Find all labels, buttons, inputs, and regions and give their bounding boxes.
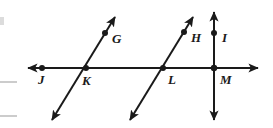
margin-rule-top-artifact bbox=[0, 17, 4, 25]
point-label-j: J bbox=[37, 72, 45, 87]
page-edge-artifacts bbox=[0, 17, 17, 117]
point-l-dot bbox=[160, 65, 166, 71]
margin-rule-middle-artifact bbox=[0, 81, 17, 83]
point-label-m: M bbox=[219, 72, 232, 87]
point-m-dot bbox=[211, 65, 217, 71]
point-label-h: H bbox=[190, 30, 202, 45]
geometry-canvas: G H I J K L M bbox=[0, 0, 273, 128]
point-j-dot bbox=[39, 65, 45, 71]
margin-rule-bottom-artifact bbox=[0, 115, 17, 117]
point-h-dot bbox=[181, 29, 187, 35]
point-label-k: K bbox=[81, 73, 92, 88]
point-label-g: G bbox=[112, 31, 122, 46]
geometry-figure: G H I J K L M bbox=[0, 0, 273, 128]
point-label-i: I bbox=[221, 30, 228, 45]
point-k-dot bbox=[83, 65, 89, 71]
point-i-dot bbox=[211, 30, 217, 36]
point-label-l: L bbox=[167, 72, 176, 87]
point-g-dot bbox=[102, 30, 108, 36]
